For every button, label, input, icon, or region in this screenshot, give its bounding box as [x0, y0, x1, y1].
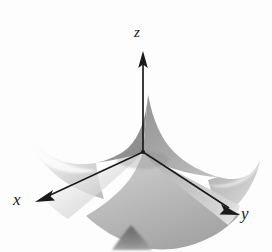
axis-label-x: x: [13, 191, 21, 208]
axis-label-y: y: [241, 205, 249, 222]
figure-container: x y z: [0, 0, 272, 252]
axis-label-z: z: [134, 25, 140, 40]
origin-point: [141, 150, 145, 154]
